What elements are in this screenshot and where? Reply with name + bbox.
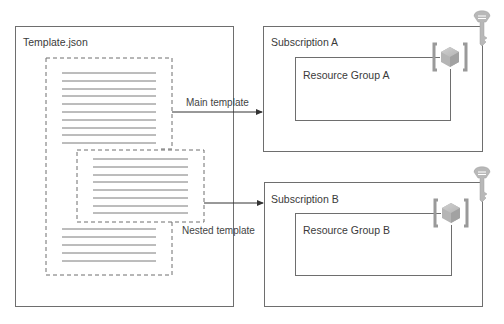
resource-group-icon [434, 44, 466, 70]
resource-group-icon [435, 200, 467, 226]
diagram-graphics [0, 0, 504, 324]
main-template-lines [62, 73, 156, 143]
nested-template-outline [77, 150, 204, 222]
key-icon [474, 11, 490, 46]
trailing-template-lines [62, 229, 156, 261]
key-icon [474, 167, 490, 202]
